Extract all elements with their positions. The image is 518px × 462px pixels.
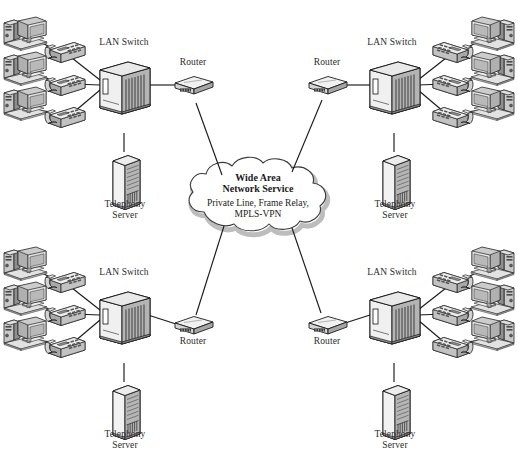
cloud-title-line2: Network Service bbox=[198, 183, 318, 195]
diagram-canvas: Wide Area Network Service Private Line, … bbox=[0, 0, 518, 462]
cloud-services-line1: Private Line, Frame Relay, bbox=[190, 198, 326, 210]
network-diagram bbox=[0, 0, 518, 462]
wan-cloud-shape bbox=[189, 157, 327, 234]
router-label-bottom-right: Router bbox=[292, 336, 362, 347]
router-label-top-right: Router bbox=[292, 57, 362, 68]
server-label-top-left: Telephony Server bbox=[90, 199, 160, 221]
server-label-top-right: Telephony Server bbox=[360, 199, 430, 221]
router-label-top-left: Router bbox=[158, 57, 228, 68]
switch-label-bottom-right: LAN Switch bbox=[352, 267, 432, 278]
cloud-services-line2: MPLS-VPN bbox=[190, 209, 326, 221]
switch-label-top-left: LAN Switch bbox=[84, 37, 164, 48]
switch-label-top-right: LAN Switch bbox=[352, 37, 432, 48]
server-label-bottom-right: Telephony Server bbox=[360, 429, 430, 451]
server-label-bottom-left: Telephony Server bbox=[90, 429, 160, 451]
router-label-bottom-left: Router bbox=[158, 336, 228, 347]
cloud-title-line1: Wide Area bbox=[198, 172, 318, 184]
switch-label-bottom-left: LAN Switch bbox=[84, 267, 164, 278]
